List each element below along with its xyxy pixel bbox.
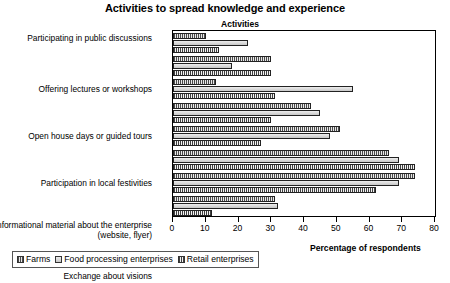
x-axis-tick [336,217,337,222]
series-0-swatch [17,256,24,263]
x-axis-tick [172,217,173,222]
x-axis-title: Percentage of respondents [310,243,421,253]
category-label: Participating in public discussions [0,33,152,43]
chart-container: Activities to spread knowledge and exper… [0,0,450,283]
bar [173,210,212,216]
bar [173,133,330,139]
category-label: Participation in local festivities [0,178,152,188]
bar-group: Participation of the employees in traini… [173,171,435,194]
legend-item-label: Food processing enterprises [64,254,172,264]
legend-item-label: Farms [26,254,50,264]
x-axis-tick [369,217,370,222]
category-label: Informational material about the enterpr… [0,220,152,240]
bar [173,173,415,179]
bar [173,196,275,202]
x-axis-tick [270,217,271,222]
bar-group: Exchange about visions [173,148,435,171]
x-axis-tick [434,217,435,222]
x-axis: 01020304050607080 [172,217,436,239]
bar [173,63,232,69]
category-label: Offering lectures or workshops [0,84,152,94]
bar [173,157,399,163]
bar [173,40,248,46]
category-label: Open house days or guided tours [0,131,152,141]
bar-group: Informational material about the enterpr… [173,125,435,148]
series-2-swatch [178,256,185,263]
bar [173,79,216,85]
bar-group: Open house days or guided tours [173,78,435,101]
x-axis-tick-label: 30 [265,223,275,233]
x-axis-tick [401,217,402,222]
legend-item[interactable]: Retail enterprises [178,254,254,264]
bar-group: Participating in public discussions [173,31,435,54]
bar [173,126,340,132]
legend-item-label: Retail enterprises [187,254,254,264]
x-axis-tick-label: 50 [331,223,341,233]
bars-layer: Participating in public discussionsOffer… [173,31,435,216]
bar [173,164,415,170]
x-axis-tick-label: 40 [298,223,308,233]
bar-group: Training young people [173,195,435,218]
x-axis-tick [205,217,206,222]
x-axis-tick-label: 60 [364,223,374,233]
bar [173,203,278,209]
x-axis-tick [303,217,304,222]
x-axis-tick-label: 20 [233,223,243,233]
bar [173,117,271,123]
category-label: Exchange about visions [0,271,152,281]
bar [173,70,271,76]
bar [173,140,261,146]
legend-item[interactable]: Food processing enterprises [55,254,172,264]
legend-item[interactable]: Farms [17,254,50,264]
bar [173,103,311,109]
chart-title: Activities to spread knowledge and exper… [0,2,450,14]
x-axis-tick-label: 80 [429,223,439,233]
bar [173,33,206,39]
legend: FarmsFood processing enterprisesRetail e… [12,251,259,268]
x-axis-tick [238,217,239,222]
plot-area: Participating in public discussionsOffer… [172,30,436,217]
bar [173,56,271,62]
bar-group: Participation in local festivities [173,101,435,124]
series-1-swatch [55,256,62,263]
x-axis-tick-label: 10 [200,223,210,233]
x-axis-tick-label: 0 [170,223,175,233]
bar [173,93,275,99]
bar [173,86,353,92]
bar [173,150,389,156]
bar [173,180,399,186]
bar [173,47,219,53]
bar-group: Offering lectures or workshops [173,54,435,77]
x-axis-tick-label: 70 [396,223,406,233]
bar [173,110,320,116]
category-axis-title: Activities [170,19,310,29]
bar [173,187,376,193]
